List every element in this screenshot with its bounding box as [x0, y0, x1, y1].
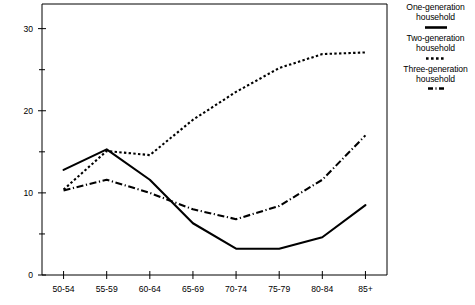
x-tick-label: 85+	[358, 284, 373, 294]
legend-entry-one-generation: One-generation household	[396, 2, 475, 32]
x-tick-label: 65-69	[182, 284, 204, 294]
legend-label-line1: Three-generation	[396, 64, 475, 74]
x-tick-label: 80-84	[311, 284, 333, 294]
y-axis-tick-labels: 0102030	[23, 24, 33, 280]
x-tick-label: 75-79	[268, 284, 290, 294]
line-chart: 0102030 50-5455-5960-6465-6970-7475-7980…	[0, 0, 475, 305]
x-tick-label: 55-59	[96, 284, 118, 294]
dash-dot-line-sample	[396, 84, 475, 93]
series-line-dash-dot	[64, 135, 366, 219]
legend-label-line1: Two-generation	[396, 33, 475, 43]
y-tick-label: 30	[23, 24, 33, 34]
y-tick-label: 0	[28, 270, 33, 280]
legend-entry-two-generation: Two-generation household	[396, 33, 475, 63]
data-series-layer	[64, 52, 366, 248]
solid-line-sample	[396, 23, 475, 32]
x-axis-tick-labels: 50-5455-5960-6465-6970-7475-7980-8485+	[53, 284, 373, 294]
x-tick-label: 70-74	[225, 284, 247, 294]
x-tick-label: 60-64	[139, 284, 161, 294]
dotted-line-sample	[396, 54, 475, 63]
chart-legend: One-generation household Two-generation …	[396, 2, 475, 94]
series-line-dotted	[64, 52, 366, 189]
legend-entry-three-generation: Three-generation household	[396, 64, 475, 94]
legend-label-line2: household	[396, 12, 475, 22]
legend-label-line2: household	[396, 74, 475, 84]
y-tick-label: 10	[23, 188, 33, 198]
series-line-solid	[64, 149, 366, 248]
legend-label-line2: household	[396, 43, 475, 53]
y-tick-label: 20	[23, 106, 33, 116]
legend-label-line1: One-generation	[396, 2, 475, 12]
x-tick-label: 50-54	[53, 284, 75, 294]
